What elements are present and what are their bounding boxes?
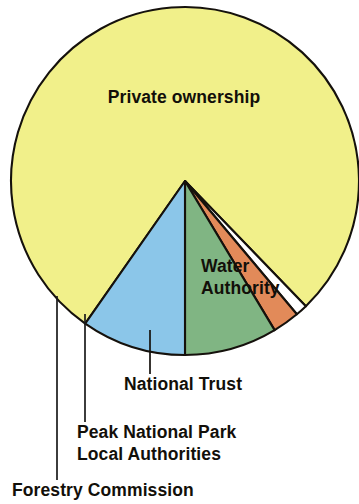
- slice-label-private-ownership: Private ownership: [108, 87, 260, 107]
- pie-chart-svg: Private ownership Water Authority Nation…: [0, 0, 359, 504]
- callout-label-national-trust: National Trust: [124, 374, 242, 394]
- slice-label-water-authority-line2: Authority: [201, 278, 280, 298]
- callout-label-forestry-commission: Forestry Commission: [12, 480, 194, 500]
- pie-chart-figure: Private ownership Water Authority Nation…: [0, 0, 359, 504]
- callout-label-peak-national-park-line2: Local Authorities: [77, 444, 221, 464]
- slice-label-water-authority-line1: Water: [201, 256, 250, 276]
- callout-label-peak-national-park-line1: Peak National Park: [77, 422, 237, 442]
